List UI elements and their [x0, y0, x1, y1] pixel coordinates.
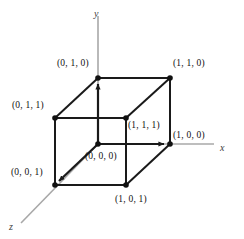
edge-010-011 — [55, 78, 98, 118]
vertex-dot-110 — [167, 75, 173, 81]
vertex-dot-101 — [123, 182, 129, 188]
axis-lines — [21, 16, 214, 223]
vertex-label-110: (1, 1, 0) — [173, 58, 205, 68]
x-axis-label: x — [220, 142, 224, 153]
vertex-dot-010 — [95, 75, 101, 81]
vertex-label-100: (1, 0, 0) — [173, 130, 205, 140]
vertex-dot-011 — [52, 115, 58, 121]
vertex-dot-001 — [52, 182, 58, 188]
vertex-label-011: (0, 1, 1) — [12, 100, 44, 110]
vertex-label-010: (0, 1, 0) — [57, 58, 89, 68]
cube-diagram: (0, 1, 0) (1, 1, 0) (0, 1, 1) (1, 1, 1) … — [0, 0, 244, 239]
edge-100-101 — [126, 144, 170, 185]
vertex-label-000: (0, 0, 0) — [85, 151, 117, 161]
cube-edges — [55, 78, 170, 185]
vertex-label-001: (0, 0, 1) — [11, 167, 43, 177]
vertex-dot-100 — [167, 141, 173, 147]
vertex-label-111: (1, 1, 1) — [128, 120, 160, 130]
vertex-label-101: (1, 0, 1) — [115, 194, 147, 204]
y-axis-label: y — [94, 8, 98, 19]
z-axis-label: z — [9, 221, 13, 232]
edge-110-111 — [126, 78, 170, 118]
edge-000-001 — [59, 144, 98, 181]
vertex-dot-000 — [95, 141, 101, 147]
